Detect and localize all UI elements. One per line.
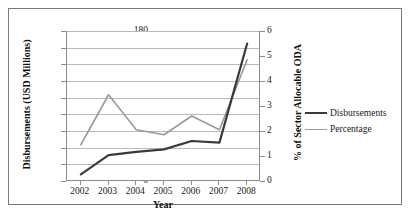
x-axis-tick-mark — [191, 181, 192, 185]
y-axis-right-tick-mark — [260, 181, 265, 182]
legend-line-icon — [305, 112, 327, 114]
x-axis-tick-mark — [108, 181, 109, 185]
line-disbursements — [81, 44, 247, 175]
y-axis-right-tick-label: 2 — [267, 126, 287, 136]
chart-figure: Disbursements (USD Millions) % of Sector… — [0, 0, 410, 221]
y-axis-right-tick-label: 0 — [267, 176, 287, 186]
x-axis-tick-mark — [218, 181, 219, 185]
legend-item[interactable]: Percentage — [305, 121, 405, 137]
y-axis-left-title: Disbursements (USD Millions) — [21, 25, 32, 185]
y-axis-right-tick-label: 4 — [267, 76, 287, 86]
x-axis-tick-label: 2008 — [226, 187, 266, 197]
legend-item-label: Disbursements — [330, 108, 386, 118]
y-axis-right-title: % of Sector Allocable ODA — [292, 23, 303, 183]
chart-legend: DisbursementsPercentage — [305, 105, 405, 137]
y-axis-right-tick-label: 3 — [267, 101, 287, 111]
y-axis-right-tick-label: 5 — [267, 51, 287, 61]
x-axis-tick-mark — [163, 181, 164, 185]
series-lines — [67, 31, 261, 181]
legend-line-icon — [305, 129, 327, 130]
y-axis-left-tick-mark — [61, 181, 66, 182]
legend-item-label: Percentage — [330, 124, 372, 134]
x-axis-tick-mark — [246, 181, 247, 185]
y-axis-right-tick-label: 1 — [267, 151, 287, 161]
plot-area — [66, 31, 260, 181]
legend-item[interactable]: Disbursements — [305, 105, 405, 121]
y-axis-right-tick-label: 6 — [267, 26, 287, 36]
figure-frame: Disbursements (USD Millions) % of Sector… — [8, 8, 402, 205]
x-axis-tick-mark — [135, 181, 136, 185]
x-axis-title: Year — [66, 199, 260, 210]
x-axis-tick-mark — [80, 181, 81, 185]
